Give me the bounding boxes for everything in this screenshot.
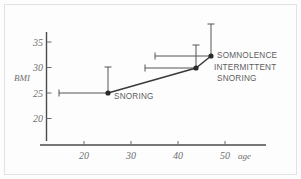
annotation-intermittent-snoring-line2: SNORING xyxy=(217,74,257,83)
data-point-somnolence[interactable] xyxy=(208,53,213,58)
x-tick-label-50: 50 xyxy=(220,150,230,161)
y-tick-label-30: 30 xyxy=(32,62,43,73)
x-tick-label-20: 20 xyxy=(79,150,89,161)
y-axis-title: BMI xyxy=(14,73,31,83)
chart-plot-area: 35 30 25 20 BMI 20 30 40 50 age xyxy=(0,0,301,179)
annotation-snoring: SNORING xyxy=(114,92,154,101)
y-tick-label-20: 20 xyxy=(33,113,43,124)
chart-figure: 35 30 25 20 BMI 20 30 40 50 age xyxy=(0,0,301,179)
x-tick-label-30: 30 xyxy=(125,150,136,161)
x-axis-title: age xyxy=(238,151,251,161)
y-tick-label-35: 35 xyxy=(32,37,43,48)
x-tick-label-40: 40 xyxy=(173,150,183,161)
y-axis: 35 30 25 20 BMI xyxy=(14,32,52,141)
data-point-intermittent-snoring[interactable] xyxy=(193,65,198,70)
data-point-snoring[interactable] xyxy=(105,90,110,95)
x-axis: 20 30 40 50 age xyxy=(40,141,266,161)
annotation-somnolence: SOMNOLENCE xyxy=(217,51,278,60)
error-bars-group xyxy=(59,24,215,97)
y-tick-label-25: 25 xyxy=(33,88,43,99)
annotation-intermittent: INTERMITTENT xyxy=(214,63,276,72)
